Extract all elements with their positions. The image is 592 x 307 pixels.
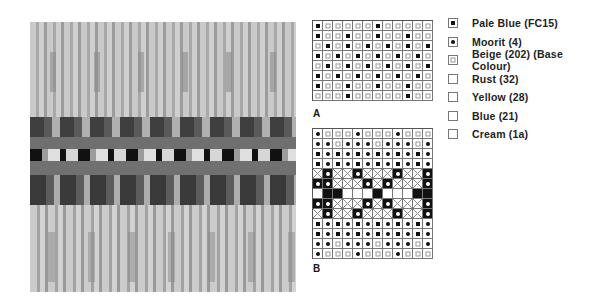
chart-cell (363, 31, 373, 41)
chart-cell (353, 159, 363, 169)
chart-cell (343, 81, 353, 91)
empty-square-icon (448, 129, 458, 139)
chart-cell (333, 159, 343, 169)
chart-cell (413, 169, 423, 179)
chart-cell (403, 51, 413, 61)
black-square-white-dot-icon (448, 74, 458, 84)
chart-cell (353, 31, 363, 41)
chart-cell (343, 159, 353, 169)
chart-cell (343, 179, 353, 189)
chart-cell (323, 229, 333, 239)
chart-cell (323, 31, 333, 41)
chart-cell (403, 71, 413, 81)
chart-cell (353, 71, 363, 81)
knitted-swatch-photo (30, 22, 296, 292)
chart-cell (323, 51, 333, 61)
chart-cell (363, 229, 373, 239)
chart-cell (383, 139, 393, 149)
chart-cell (393, 179, 403, 189)
chart-cell (343, 219, 353, 229)
chart-cell (403, 129, 413, 139)
chart-cell (373, 249, 383, 259)
chart-cell (343, 71, 353, 81)
chart-cell (333, 31, 343, 41)
chart-cell (373, 81, 383, 91)
chart-cell (313, 129, 323, 139)
chart-cell (393, 31, 403, 41)
chart-cell (313, 159, 323, 169)
chart-a-grid (312, 20, 433, 101)
chart-cell (383, 239, 393, 249)
chart-cell (403, 189, 413, 199)
chart-cell (413, 41, 423, 51)
chart-cell (353, 149, 363, 159)
key-item-yellow: Yellow (28) (448, 88, 592, 107)
chart-cell (403, 239, 413, 249)
colour-key: Pale Blue (FC15) Moorit (4) Beige (202) … (448, 14, 592, 144)
chart-cell (363, 249, 373, 259)
chart-cell (363, 149, 373, 159)
chart-cell (413, 159, 423, 169)
chart-cell (393, 209, 403, 219)
crossed-square-icon (448, 92, 458, 102)
chart-cell (313, 179, 323, 189)
chart-cell (413, 51, 423, 61)
chart-cell (423, 61, 433, 71)
chart-cell (393, 21, 403, 31)
chart-cell (393, 139, 403, 149)
chart-cell (393, 249, 403, 259)
chart-cell (363, 51, 373, 61)
chart-cell (373, 219, 383, 229)
chart-cell (333, 91, 343, 101)
chart-cell (393, 189, 403, 199)
key-label: Beige (202) (Base Colour) (472, 48, 592, 72)
chart-cell (333, 139, 343, 149)
chart-cell (393, 61, 403, 71)
chart-cell (353, 41, 363, 51)
chart-cell (323, 139, 333, 149)
chart-cell (423, 81, 433, 91)
chart-cell (323, 41, 333, 51)
chart-cell (323, 249, 333, 259)
chart-a-label: A (313, 108, 320, 119)
chart-cell (403, 41, 413, 51)
chart-cell (423, 199, 433, 209)
chart-cell (423, 91, 433, 101)
chart-cell (353, 239, 363, 249)
chart-cell (383, 61, 393, 71)
chart-cell (313, 249, 323, 259)
chart-cell (413, 139, 423, 149)
chart-cell (383, 249, 393, 259)
chart-cell (343, 61, 353, 71)
chart-cell (353, 189, 363, 199)
chart-cell (423, 41, 433, 51)
chart-cell (393, 229, 403, 239)
chart-cell (373, 209, 383, 219)
chart-cell (353, 249, 363, 259)
chart-cell (363, 81, 373, 91)
chart-cell (323, 71, 333, 81)
chart-cell (403, 179, 413, 189)
chart-cell (313, 71, 323, 81)
chart-cell (323, 169, 333, 179)
chart-cell (333, 189, 343, 199)
chart-cell (363, 239, 373, 249)
key-item-pale-blue: Pale Blue (FC15) (448, 14, 592, 33)
chart-cell (363, 139, 373, 149)
chart-cell (413, 129, 423, 139)
chart-cell (423, 139, 433, 149)
chart-cell (313, 61, 323, 71)
chart-cell (373, 61, 383, 71)
chart-cell (393, 199, 403, 209)
chart-cell (373, 229, 383, 239)
chart-cell (383, 199, 393, 209)
chart-cell (313, 41, 323, 51)
chart-cell (343, 129, 353, 139)
chart-cell (383, 229, 393, 239)
chart-cell (423, 149, 433, 159)
chart-cell (353, 139, 363, 149)
chart-cell (423, 71, 433, 81)
chart-cell (403, 229, 413, 239)
chart-cell (313, 51, 323, 61)
chart-cell (313, 139, 323, 149)
